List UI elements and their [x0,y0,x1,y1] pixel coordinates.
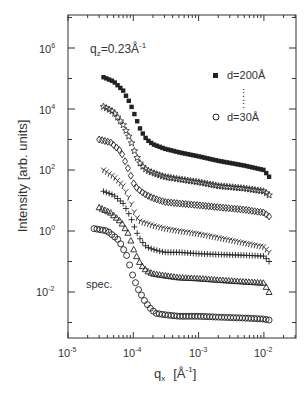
y-tick-labels: 106 104 102 100 10-2 [36,42,55,298]
y-tick-1e4: 104 [39,103,55,116]
y-tick-1e2: 102 [39,163,55,176]
x-axis-label: qx[Å-1] [154,365,196,383]
y-tick-1e6: 106 [39,42,55,55]
series-plus [101,188,273,264]
x-tick-1e-2: 10-2 [254,346,273,359]
x-tick-labels: 10-5 10-4 10-3 10-2 [58,346,273,359]
x-tick-1e-5: 10-5 [58,346,77,359]
y-tick-1e-2: 10-2 [36,285,55,298]
qz-annotation: qz=0.23Å-1 [90,41,147,58]
series-open-circle [91,226,272,323]
legend-marker-filled-square [213,73,218,78]
y-axis-label: Intensity [arb. units] [15,120,30,233]
x-tick-1e-3: 10-3 [189,346,208,359]
spec-label: spec. [86,278,112,290]
x-tick-1e-4: 10-4 [123,346,142,359]
legend-label-d30: d=30Å [227,111,260,123]
y-tick-1e0: 100 [39,224,55,237]
series-open-triangle [96,204,272,294]
legend-label-d200: d=200Å [227,69,266,81]
legend: d=200Å ⋮ ⋮ d=30Å [213,69,266,123]
scatter-chart: qz=0.23Å-1 spec. d=200Å ⋮ ⋮ d=30Å 106 10… [0,0,308,395]
legend-ellipsis-2: ⋮ [238,98,249,110]
legend-marker-open-circle [213,114,219,120]
